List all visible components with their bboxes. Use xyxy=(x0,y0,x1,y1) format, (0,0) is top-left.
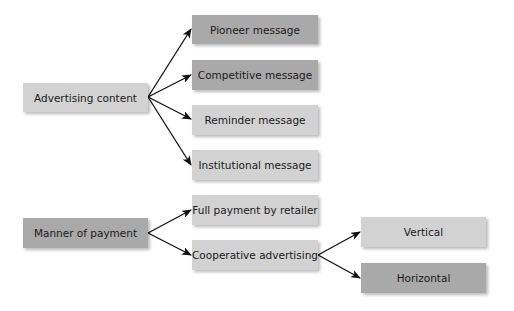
arrow-advertising-to-pioneer xyxy=(148,29,191,97)
node-pioneer-message: Pioneer message xyxy=(192,15,318,44)
arrow-payment-to-full xyxy=(148,210,191,233)
node-manner-of-payment: Manner of payment xyxy=(23,218,148,248)
node-vertical: Vertical xyxy=(361,217,486,247)
node-label: Horizontal xyxy=(397,272,451,284)
node-full-payment-by-retailer: Full payment by retailer xyxy=(192,195,318,225)
node-label: Pioneer message xyxy=(210,24,300,36)
arrow-cooperative-to-horizontal xyxy=(318,255,360,278)
arrow-advertising-to-reminder xyxy=(148,97,191,119)
arrow-cooperative-to-vertical xyxy=(318,232,360,255)
node-cooperative-advertising: Cooperative advertising xyxy=(192,240,318,270)
arrow-payment-to-cooperative xyxy=(148,233,191,255)
node-label: Vertical xyxy=(404,226,443,238)
node-reminder-message: Reminder message xyxy=(192,105,318,135)
node-label: Full payment by retailer xyxy=(192,204,317,216)
node-label: Institutional message xyxy=(198,159,311,171)
node-label: Advertising content xyxy=(34,92,137,104)
node-label: Manner of payment xyxy=(34,227,137,239)
node-competitive-message: Competitive message xyxy=(192,60,318,90)
node-institutional-message: Institutional message xyxy=(192,150,318,180)
node-label: Reminder message xyxy=(204,114,305,126)
node-label: Competitive message xyxy=(198,69,312,81)
node-advertising-content: Advertising content xyxy=(23,83,148,112)
arrow-advertising-to-institutional xyxy=(148,97,191,165)
node-horizontal: Horizontal xyxy=(361,263,486,293)
arrow-advertising-to-competitive xyxy=(148,75,191,97)
node-label: Cooperative advertising xyxy=(192,249,318,261)
